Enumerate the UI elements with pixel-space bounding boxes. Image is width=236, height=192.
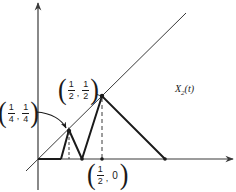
fraction-y: 1 4 <box>22 103 29 124</box>
pointer-arrow <box>36 112 66 128</box>
label-point-half: ( 1 2 , 1 2 ) <box>58 77 99 103</box>
y-value: 0 <box>112 170 118 181</box>
open-paren: ( <box>58 75 67 105</box>
function-label: X2(t) <box>175 83 194 97</box>
label-point-quarter: ( 1 4 , 1 4 ) <box>0 100 39 126</box>
point-end <box>163 157 167 161</box>
fraction-x: 1 2 <box>68 80 75 101</box>
point-quarter <box>67 129 71 133</box>
point-trough <box>80 157 84 161</box>
open-paren: ( <box>87 160 96 190</box>
function-small-tent <box>61 130 82 159</box>
fraction-x: 1 2 <box>97 165 104 186</box>
fraction-x: 1 4 <box>8 103 15 124</box>
close-paren: ) <box>30 98 39 128</box>
point-half-zero <box>100 157 104 161</box>
open-paren: ( <box>0 98 7 128</box>
close-paren: ) <box>90 75 99 105</box>
fraction-y: 1 2 <box>82 80 89 101</box>
label-point-half-zero: ( 1 2 , 0 ) <box>87 162 128 188</box>
diagonal-line <box>26 13 186 171</box>
close-paren: ) <box>120 160 129 190</box>
